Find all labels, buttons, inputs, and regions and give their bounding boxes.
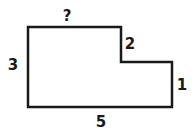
label-top-side: ? [63, 7, 72, 25]
label-left-side: 3 [8, 56, 18, 74]
l-shape-diagram: ? 3 2 1 5 [0, 0, 193, 136]
label-bottom-side: 5 [96, 113, 106, 131]
l-shape-outline [28, 27, 172, 107]
label-step-vertical-side: 2 [125, 35, 135, 53]
label-right-side: 1 [177, 76, 187, 94]
